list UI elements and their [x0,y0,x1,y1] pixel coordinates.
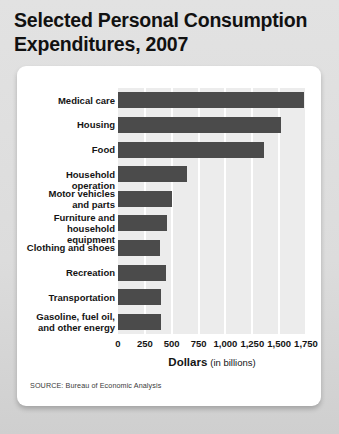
category-label: Transportation [23,292,115,303]
x-tick-label: 1,500 [267,338,291,349]
category-label: Housing [23,119,115,130]
bar-row [118,117,306,133]
x-tick-label: 0 [115,338,120,349]
bar [118,289,161,305]
bar-row [118,240,306,256]
x-tick-label: 750 [191,338,207,349]
bar-row [118,92,306,108]
page-title: Selected Personal Consumption Expenditur… [14,8,326,56]
bar-row [118,314,306,330]
source-note: SOURCE: Bureau of Economic Analysis [30,381,161,390]
bar [118,92,304,108]
category-label: Motor vehiclesand parts [23,188,115,210]
bar-row [118,215,306,231]
bar [118,240,160,256]
bar-row [118,265,306,281]
x-tick-label: 500 [164,338,180,349]
x-tick-label: 1,250 [240,338,264,349]
bar [118,142,264,158]
bar [118,191,172,207]
x-tick-label: 250 [137,338,153,349]
x-axis-ticks: 02505007501,0001,2501,5001,750 [118,338,306,352]
bar [118,166,187,182]
x-axis-title-main: Dollars [168,356,207,368]
x-axis-title: Dollars (in billions) [118,356,306,368]
category-label: Medical care [23,95,115,106]
bar-row [118,289,306,305]
bar [118,215,167,231]
x-axis-title-sub: (in billions) [210,357,255,368]
category-label: Gasoline, fuel oil,and other energy [23,311,115,333]
plot-area [118,88,306,334]
x-tick-label: 1,750 [294,338,318,349]
bar [118,117,281,133]
category-axis-labels: Medical careHousingFoodHousehold operati… [23,88,115,334]
category-label: Furniture andhousehold equipment [23,212,115,245]
category-label: Food [23,144,115,155]
category-label: Clothing and shoes [23,242,115,253]
bar [118,314,161,330]
bar-row [118,166,306,182]
page-background: Selected Personal Consumption Expenditur… [0,0,339,434]
bar-row [118,191,306,207]
x-tick-label: 1,000 [214,338,238,349]
category-label: Recreation [23,267,115,278]
bar [118,265,166,281]
bar-row [118,142,306,158]
chart-card: Medical careHousingFoodHousehold operati… [17,66,321,406]
